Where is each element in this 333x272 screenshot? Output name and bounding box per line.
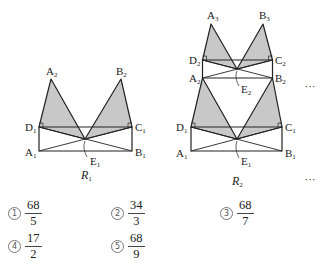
numerator: 68 — [237, 199, 254, 214]
choice-number-icon: 2 — [111, 207, 124, 220]
answer-choice-2[interactable]: 2343 — [111, 199, 145, 228]
choice-number-icon: 3 — [220, 207, 233, 220]
answer-choice-5[interactable]: 5689 — [111, 232, 145, 261]
denominator: 9 — [133, 247, 139, 261]
figure-caption: R1 — [80, 168, 92, 183]
shaded-triangle-right — [85, 79, 132, 139]
continuation-ellipsis: ··· — [305, 80, 316, 92]
vertex-label: C1 — [135, 121, 146, 135]
choice-number-icon: 5 — [111, 240, 124, 253]
vertex-label: A2 — [189, 72, 201, 86]
vertex-label: A1 — [176, 147, 188, 161]
fraction: 689 — [128, 232, 145, 261]
vertex-label: D1 — [25, 121, 37, 135]
vertex-label: C2 — [275, 54, 286, 68]
figure-caption: R2 — [231, 174, 243, 189]
vertex-label: A3 — [207, 9, 219, 23]
vertex-label: B3 — [259, 9, 270, 23]
denominator: 3 — [133, 214, 139, 228]
answer-choice-1[interactable]: 1685 — [8, 199, 42, 228]
shaded-triangle-left — [191, 78, 237, 139]
numerator: 68 — [25, 199, 42, 214]
vertex-label: B2 — [116, 65, 127, 79]
fraction: 172 — [25, 232, 42, 261]
numerator: 68 — [128, 232, 145, 247]
vertex-label: B1 — [135, 146, 146, 160]
vertex-label: D2 — [189, 54, 201, 68]
numerator: 34 — [128, 199, 145, 214]
fraction: 687 — [237, 199, 254, 228]
fraction: 685 — [25, 199, 42, 228]
label-leader — [84, 141, 87, 157]
choice-number-icon: 1 — [8, 207, 21, 220]
vertex-label: B2 — [275, 72, 286, 86]
figure-R2: A3B3D2C2A2B2E2D1C1A1B1E1R2 — [176, 9, 296, 189]
answer-choice-4[interactable]: 4172 — [8, 232, 42, 261]
denominator: 5 — [30, 214, 36, 228]
vertex-label: E1 — [90, 155, 101, 169]
denominator: 2 — [30, 247, 36, 261]
vertex-label: D1 — [176, 121, 188, 135]
denominator: 7 — [242, 214, 248, 228]
vertex-label: E2 — [241, 83, 252, 97]
vertex-label: A2 — [46, 65, 58, 79]
shaded-triangle-right — [237, 24, 273, 69]
continuation-ellipsis: ··· — [305, 173, 316, 185]
figure-R1: A2B2D1C1A1B1E1R1 — [25, 65, 146, 183]
numerator: 17 — [25, 232, 42, 247]
vertex-label: C1 — [285, 121, 296, 135]
recursive-figure-diagram: A2B2D1C1A1B1E1R1A3B3D2C2A2B2E2D1C1A1B1E1… — [0, 0, 333, 272]
fraction: 343 — [128, 199, 145, 228]
choice-number-icon: 4 — [8, 240, 21, 253]
answer-choice-3[interactable]: 3687 — [220, 199, 254, 228]
shaded-triangle-left — [203, 24, 238, 69]
vertex-label: A1 — [25, 146, 37, 160]
shaded-triangle-left — [39, 79, 85, 139]
vertex-label: B1 — [285, 147, 296, 161]
vertex-label: E1 — [241, 155, 252, 169]
label-leader — [236, 141, 239, 158]
